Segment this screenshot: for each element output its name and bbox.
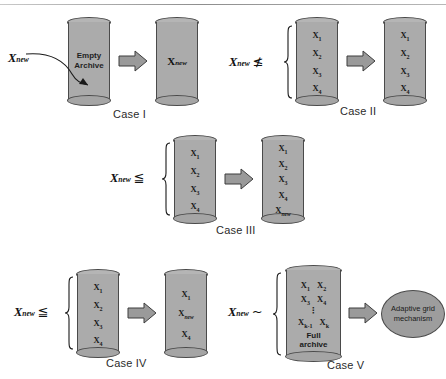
item-sub: new bbox=[184, 314, 193, 320]
cylinder-bottom-ellipse bbox=[155, 95, 199, 106]
case4-input-label: Xnew≦ bbox=[14, 302, 49, 320]
case1-curved-arrow bbox=[24, 46, 104, 92]
adaptive-grid-mechanism-node: Adaptive grid mechanism bbox=[381, 290, 445, 338]
archive-item: X2 bbox=[317, 281, 326, 292]
case2-source-cylinder: X1 X2 X3 X4 bbox=[296, 22, 338, 100]
archive-item: X2 bbox=[190, 167, 199, 178]
case1-input-label: Xnew bbox=[8, 48, 29, 66]
item-sub: 3 bbox=[407, 71, 410, 77]
case3-brace bbox=[161, 142, 172, 216]
archive-item: X3 bbox=[190, 185, 199, 196]
case3-flow-arrow bbox=[224, 168, 254, 190]
item-sub: 1 bbox=[188, 294, 191, 300]
item-sub: 4 bbox=[407, 89, 410, 95]
case4-brace bbox=[64, 276, 75, 350]
top-rule-divider bbox=[0, 4, 446, 5]
archive-item-new: Xnew bbox=[178, 309, 193, 320]
item-sub: 1 bbox=[307, 286, 310, 292]
item-sub: 2 bbox=[323, 286, 326, 292]
adaptive-line1: Adaptive grid bbox=[387, 304, 439, 313]
case4-sub: new bbox=[22, 309, 35, 318]
case4-source-cylinder: X1 X2 X3 X4 bbox=[77, 274, 119, 352]
case3-result-items: X1 X2 X3 X4 Xnew bbox=[262, 140, 304, 218]
archive-item: X2 bbox=[400, 49, 409, 60]
full-archive-line2: archive bbox=[299, 340, 327, 349]
case2-source-items: X1 X2 X3 X4 bbox=[296, 22, 338, 100]
case1-sub: new bbox=[16, 55, 29, 64]
case5-brace bbox=[272, 272, 283, 356]
archive-grid-row: Xk-1 Xk bbox=[298, 318, 329, 329]
case5-full-archive-grid: X1 X2 X3 X4 ⋮ Xk-1 Xk Full archive bbox=[286, 270, 341, 356]
case5-sub: new bbox=[236, 309, 249, 318]
archive-item: X4 bbox=[400, 84, 409, 95]
archive-item: X2 bbox=[278, 160, 287, 171]
full-archive-line1: Full bbox=[306, 331, 320, 340]
case2-input-label: Xnew≰ bbox=[229, 52, 264, 70]
item-sub: 1 bbox=[407, 36, 410, 42]
case5-source-cylinder: X1 X2 X3 X4 ⋮ Xk-1 Xk Full archive bbox=[286, 270, 341, 356]
item-sub: 4 bbox=[100, 341, 103, 347]
archive-grid-row: X3 X4 bbox=[301, 295, 326, 306]
archive-item: X1 bbox=[312, 31, 321, 42]
case5-relation-tilde: ~ bbox=[249, 304, 263, 319]
archive-item: X1 bbox=[400, 31, 409, 42]
case4-caption: Case IV bbox=[106, 357, 147, 369]
case2-result-items: X1 X2 X3 X4 bbox=[384, 22, 426, 100]
archive-item: X4 bbox=[317, 295, 326, 306]
case2-relation-nleq: ≰ bbox=[250, 54, 264, 69]
archive-item: X1 bbox=[278, 144, 287, 155]
item-sub: 3 bbox=[100, 323, 103, 329]
adaptive-grid-mechanism-label: Adaptive grid mechanism bbox=[383, 304, 443, 324]
item-sub: k bbox=[326, 322, 329, 328]
case2-result-cylinder: X1 X2 X3 X4 bbox=[384, 22, 426, 100]
item-sub: 4 bbox=[197, 207, 200, 213]
case4-result-cylinder: X1 Xnew X4 bbox=[165, 274, 207, 352]
item-sub: 4 bbox=[319, 89, 322, 95]
archive-item: X4 bbox=[181, 330, 190, 341]
case3-sub: new bbox=[118, 175, 131, 184]
item-sub: 1 bbox=[197, 154, 200, 160]
archive-item: Xk bbox=[320, 318, 329, 329]
case4-relation-leq: ≦ bbox=[35, 304, 49, 319]
item-sub: 2 bbox=[285, 165, 288, 171]
archive-item: X3 bbox=[312, 67, 321, 78]
case2-caption: Case II bbox=[340, 105, 376, 117]
case3-caption: Case III bbox=[216, 224, 256, 236]
case5-input-label: Xnew~ bbox=[228, 302, 263, 320]
item-sub: 3 bbox=[307, 300, 310, 306]
archive-item: X3 bbox=[400, 67, 409, 78]
case3-input-label: Xnew≦ bbox=[110, 168, 145, 186]
item-sub: 4 bbox=[285, 196, 288, 202]
item-sub: 2 bbox=[319, 54, 322, 60]
case3-result-cylinder: X1 X2 X3 X4 Xnew bbox=[262, 140, 304, 218]
case5-caption: Case V bbox=[327, 359, 364, 371]
item-sub: 2 bbox=[197, 172, 200, 178]
item-sub: 2 bbox=[407, 54, 410, 60]
full-archive-label: Full archive bbox=[299, 331, 327, 349]
archive-item: X4 bbox=[190, 202, 199, 213]
item-sub: 4 bbox=[323, 300, 326, 306]
archive-item: X1 bbox=[93, 283, 102, 294]
item-sub: new bbox=[281, 211, 290, 217]
case1-result-xnew: Xnew bbox=[156, 55, 198, 67]
item-sub: 2 bbox=[100, 306, 103, 312]
case1-flow-arrow bbox=[118, 50, 148, 72]
case4-source-items: X1 X2 X3 X4 bbox=[77, 274, 119, 352]
case1-result-cylinder: Xnew bbox=[156, 22, 198, 100]
cylinder-bottom-ellipse bbox=[67, 95, 111, 106]
case5-flow-arrow bbox=[348, 302, 378, 324]
archive-item: X2 bbox=[312, 49, 321, 60]
archive-item: X4 bbox=[312, 84, 321, 95]
case2-brace bbox=[283, 25, 294, 99]
vertical-ellipsis: ⋮ bbox=[310, 308, 318, 315]
adaptive-line2: mechanism bbox=[390, 314, 436, 323]
archive-item: X1 bbox=[190, 149, 199, 160]
case3-source-cylinder: X1 X2 X3 X4 bbox=[174, 140, 216, 218]
item-sub: 3 bbox=[319, 71, 322, 77]
archive-item: X3 bbox=[301, 295, 310, 306]
item-sub: 1 bbox=[319, 36, 322, 42]
case2-flow-arrow bbox=[346, 50, 376, 72]
case4-flow-arrow bbox=[127, 302, 157, 324]
case3-relation-leq: ≦ bbox=[131, 170, 145, 185]
result-x: X bbox=[167, 55, 175, 67]
